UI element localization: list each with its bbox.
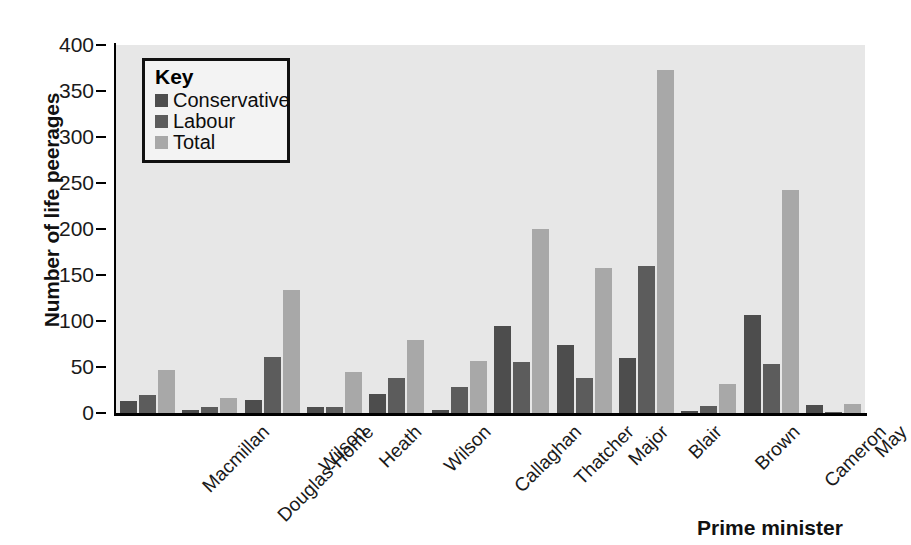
bar[interactable] — [158, 370, 175, 413]
legend-entries: ConservativeLabourTotal — [155, 90, 279, 154]
bar[interactable] — [619, 358, 636, 413]
bar[interactable] — [139, 395, 156, 413]
bar-group — [619, 45, 674, 413]
y-tick-label: 300 — [59, 125, 94, 149]
x-tick-label: Wilson — [440, 421, 496, 477]
bar[interactable] — [638, 266, 655, 413]
y-tick-label: 50 — [71, 355, 94, 379]
y-tick-label: 350 — [59, 79, 94, 103]
chart-legend: Key ConservativeLabourTotal — [142, 58, 290, 163]
x-tick-label: Brown — [751, 421, 805, 475]
bar[interactable] — [806, 405, 823, 413]
bar[interactable] — [557, 345, 574, 413]
bar[interactable] — [369, 394, 386, 413]
bar[interactable] — [700, 406, 717, 413]
y-tick-label: 200 — [59, 217, 94, 241]
legend-item-label: Total — [173, 132, 215, 153]
x-tick-label: Heath — [375, 421, 426, 472]
y-tick-label: 150 — [59, 263, 94, 287]
bar[interactable] — [220, 398, 237, 413]
bar[interactable] — [388, 378, 405, 413]
x-tick-label: Macmillan — [198, 421, 274, 497]
bar[interactable] — [120, 401, 137, 413]
bar-group — [432, 45, 487, 413]
y-axis-ticks: 050100150200250300350400 — [30, 0, 106, 545]
bar-group — [557, 45, 612, 413]
x-tick-label: Callaghan — [510, 421, 586, 497]
legend-title: Key — [155, 66, 279, 89]
x-tick-label: Major — [624, 421, 673, 470]
y-tick-mark — [96, 320, 106, 322]
y-tick-mark — [96, 412, 106, 414]
bar[interactable] — [283, 290, 300, 413]
bar[interactable] — [245, 400, 262, 413]
bar[interactable] — [345, 372, 362, 413]
bar-group — [806, 45, 861, 413]
legend-swatch-icon — [155, 115, 168, 128]
bar[interactable] — [744, 315, 761, 413]
legend-swatch-icon — [155, 94, 168, 107]
bar[interactable] — [532, 229, 549, 413]
bar-group — [494, 45, 549, 413]
legend-item-conservative[interactable]: Conservative — [155, 90, 279, 111]
bar-group — [307, 45, 362, 413]
y-tick-label: 0 — [82, 401, 94, 425]
x-axis-title: Prime minister — [697, 516, 843, 540]
bar[interactable] — [719, 384, 736, 413]
bar-group — [369, 45, 424, 413]
bar[interactable] — [451, 387, 468, 413]
y-tick-mark — [96, 228, 106, 230]
y-tick-mark — [96, 182, 106, 184]
y-tick-label: 250 — [59, 171, 94, 195]
bar[interactable] — [576, 378, 593, 413]
bar[interactable] — [264, 357, 281, 413]
bar[interactable] — [494, 326, 511, 413]
y-tick-mark — [96, 274, 106, 276]
x-tick-label: Blair — [684, 421, 726, 463]
bar[interactable] — [844, 404, 861, 413]
bar[interactable] — [407, 340, 424, 413]
bar[interactable] — [763, 364, 780, 413]
y-tick-mark — [96, 90, 106, 92]
y-tick-mark — [96, 366, 106, 368]
legend-item-label: Labour — [173, 111, 235, 132]
legend-swatch-icon — [155, 136, 168, 149]
bar[interactable] — [782, 190, 799, 413]
y-tick-mark — [96, 136, 106, 138]
bar[interactable] — [470, 361, 487, 413]
bar[interactable] — [657, 70, 674, 413]
legend-item-labour[interactable]: Labour — [155, 111, 279, 132]
legend-item-total[interactable]: Total — [155, 132, 279, 153]
y-tick-label: 100 — [59, 309, 94, 333]
legend-item-label: Conservative — [173, 90, 290, 111]
bar-group — [681, 45, 736, 413]
y-tick-label: 400 — [59, 33, 94, 57]
y-tick-mark — [96, 44, 106, 46]
bar-group — [744, 45, 799, 413]
bar[interactable] — [595, 268, 612, 413]
bar[interactable] — [513, 362, 530, 413]
